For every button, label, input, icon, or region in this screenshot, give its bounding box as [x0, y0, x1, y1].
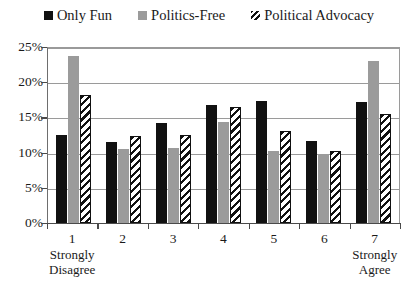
x-axis-category-number: 7 — [350, 231, 400, 247]
bar-group — [349, 48, 399, 223]
bar — [156, 123, 167, 223]
x-axis-tick-mark — [299, 223, 300, 229]
bar — [306, 141, 317, 223]
bar — [280, 131, 291, 223]
x-axis-ticks — [47, 223, 400, 229]
bar — [230, 107, 241, 223]
legend-item-only-fun: Only Fun — [44, 8, 112, 23]
bar — [206, 105, 217, 223]
x-axis-anchor-caption: Strongly — [47, 247, 97, 262]
x-axis-tick-mark — [198, 223, 199, 229]
bar — [68, 56, 79, 223]
bar — [330, 151, 341, 224]
diagonal-hatched-square-icon — [251, 11, 260, 20]
y-axis: 0%5%10%15%20%25% — [0, 0, 43, 294]
solid-black-square-icon — [44, 11, 53, 20]
legend-label: Political Advocacy — [264, 8, 374, 23]
x-axis-category-number: 5 — [249, 231, 299, 247]
bar — [130, 136, 141, 223]
bar — [118, 149, 129, 223]
legend-label: Politics-Free — [151, 8, 225, 23]
bar — [356, 102, 367, 223]
y-axis-tick-label: 10% — [3, 146, 43, 160]
y-axis-tick-label: 0% — [3, 216, 43, 230]
x-axis-tick-mark — [148, 223, 149, 229]
legend-label: Only Fun — [57, 8, 112, 23]
x-axis-tick-mark — [400, 223, 401, 229]
bar-groups — [48, 48, 399, 223]
x-axis-anchor-caption: Disagree — [47, 262, 97, 277]
x-axis-category-label: 1StronglyDisagree — [47, 231, 97, 278]
y-axis-tick-label: 25% — [3, 40, 43, 54]
bar — [268, 151, 279, 224]
x-axis-category-number: 3 — [148, 231, 198, 247]
y-axis-tick-label: 5% — [3, 181, 43, 195]
solid-gray-square-icon — [138, 11, 147, 20]
x-axis-category-number: 6 — [299, 231, 349, 247]
bar-group — [249, 48, 299, 223]
x-axis-category-label: 5 — [249, 231, 299, 278]
y-axis-tick-label: 20% — [3, 75, 43, 89]
bar — [180, 135, 191, 223]
bar — [318, 154, 329, 223]
bar-group — [98, 48, 148, 223]
bar — [168, 148, 179, 223]
bar — [106, 142, 117, 223]
legend-item-politics-free: Politics-Free — [138, 8, 225, 23]
x-axis-anchor-caption: Agree — [350, 262, 400, 277]
bar — [56, 135, 67, 223]
x-axis-category-number: 1 — [47, 231, 97, 247]
plot-area — [47, 47, 400, 223]
x-axis-tick-mark — [97, 223, 98, 229]
legend-item-political-advocacy: Political Advocacy — [251, 8, 374, 23]
bar — [218, 122, 229, 223]
bar-group — [198, 48, 248, 223]
x-axis-tick-mark — [249, 223, 250, 229]
bar-group — [299, 48, 349, 223]
x-axis-labels: 1StronglyDisagree234567StronglyAgree — [47, 231, 400, 278]
x-axis-category-label: 2 — [97, 231, 147, 278]
x-axis-anchor-caption: Strongly — [350, 247, 400, 262]
bar — [256, 101, 267, 223]
y-axis-tick-label: 15% — [3, 111, 43, 125]
bar — [380, 114, 391, 223]
bar — [368, 61, 379, 223]
bar — [80, 95, 91, 223]
x-axis-tick-mark — [350, 223, 351, 229]
x-axis-category-label: 6 — [299, 231, 349, 278]
bar-chart: Only Fun Politics-Free Political Advocac… — [0, 0, 418, 294]
x-axis-category-number: 4 — [198, 231, 248, 247]
bar-group — [148, 48, 198, 223]
x-axis-category-label: 3 — [148, 231, 198, 278]
bar-group — [48, 48, 98, 223]
x-axis-category-label: 7StronglyAgree — [350, 231, 400, 278]
x-axis-tick-mark — [47, 223, 48, 229]
chart-legend: Only Fun Politics-Free Political Advocac… — [0, 8, 418, 23]
x-axis-category-number: 2 — [97, 231, 147, 247]
x-axis-category-label: 4 — [198, 231, 248, 278]
